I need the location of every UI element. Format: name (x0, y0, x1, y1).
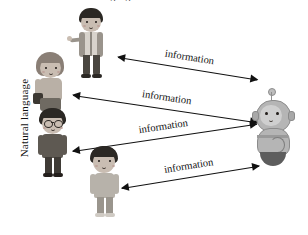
arm-right (61, 135, 67, 155)
robot-ear-right (288, 111, 295, 121)
arrow-information-1: information (117, 51, 258, 87)
glasses-bridge (51, 122, 54, 123)
diagram-canvas: Natural Language Interaction Natural lan… (0, 0, 308, 235)
leg-left (83, 55, 90, 75)
cheek-left (43, 127, 46, 129)
robot-eye-left (265, 112, 268, 115)
robot-face (260, 105, 282, 126)
torso (94, 173, 115, 198)
torso (42, 134, 63, 158)
arrow-head-right-icon (250, 74, 259, 83)
robot-figure (250, 92, 296, 168)
jacket-right (97, 32, 103, 57)
robot-ear-left (252, 111, 259, 121)
arrow-label: information (164, 48, 215, 67)
person-pointing-figure (70, 8, 112, 78)
axis-label-natural-language: Natural language (18, 53, 30, 183)
arrow-head-left-icon (117, 52, 126, 61)
shoe-left (81, 74, 91, 78)
jacket-left (79, 32, 85, 57)
leg-right (93, 55, 100, 75)
cheek-right (97, 25, 100, 27)
arm-right (113, 174, 119, 194)
arrow-label: information (142, 88, 193, 106)
child-figure (84, 146, 126, 218)
robot-base (260, 152, 286, 166)
cheek-right (60, 127, 63, 129)
shoe-left (43, 173, 53, 177)
clipped-title: Natural Language Interaction (60, 0, 300, 1)
arm-left (38, 135, 44, 155)
hair-fringe-icon (40, 110, 65, 118)
hand (67, 36, 72, 41)
cheek-left (83, 25, 86, 27)
hair-fringe-icon (38, 55, 63, 63)
hair-fringe-icon (91, 148, 117, 157)
shoe-left (95, 213, 105, 217)
arm-left (90, 174, 96, 194)
arrow-label: information (163, 156, 214, 175)
shoe-right (53, 173, 63, 177)
cheek-left (95, 165, 98, 167)
hair-fringe-icon (80, 11, 102, 18)
shirt-stripe (90, 32, 92, 56)
cheek-left (42, 71, 45, 73)
shoe-right (92, 74, 102, 78)
arrow-label: information (138, 117, 189, 135)
shoe-right (105, 213, 115, 217)
cheek-right (112, 165, 115, 167)
person-with-glasses-figure (32, 108, 74, 178)
arrow-head-left-icon (72, 90, 81, 99)
arrow-information-4: information (121, 160, 260, 196)
robot-eye-right (276, 112, 279, 115)
cheek-right (57, 71, 60, 73)
antenna-ball-icon (268, 88, 276, 96)
robot-spiral-emblem-icon (270, 137, 285, 153)
